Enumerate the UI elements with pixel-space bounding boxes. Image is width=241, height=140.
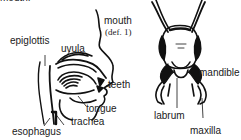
label-tongue: tongue bbox=[86, 104, 117, 114]
label-mouth: mouth bbox=[104, 16, 132, 26]
label-maxilla: maxilla bbox=[190, 126, 221, 136]
label-trachea: trachea bbox=[71, 117, 104, 127]
label-mandible: mandible bbox=[199, 68, 240, 78]
label-esophagus: esophagus bbox=[12, 127, 61, 137]
label-teeth: teeth bbox=[108, 80, 130, 90]
label-epiglottis: epiglottis bbox=[10, 36, 49, 46]
label-labrum: labrum bbox=[154, 111, 185, 121]
label-mouth-definition: (def. 1) bbox=[105, 27, 132, 37]
insect-head bbox=[152, 0, 206, 104]
label-uvula: uvula bbox=[61, 44, 85, 54]
